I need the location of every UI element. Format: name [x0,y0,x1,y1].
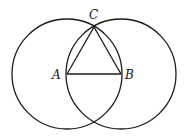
point-label-A: A [51,68,61,82]
geometry-diagram: A B C [0,0,186,137]
point-label-C: C [89,8,98,22]
point-label-B: B [124,68,134,82]
